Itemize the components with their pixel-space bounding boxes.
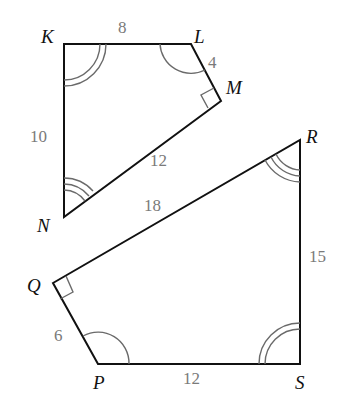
side-label-rs: 15 (309, 247, 326, 266)
side-label-sp: 12 (183, 369, 200, 388)
angle-mark-s (259, 323, 300, 364)
vertex-label-r: R (305, 126, 318, 147)
klmn-outline (64, 44, 221, 217)
side-label-nk: 10 (30, 127, 47, 146)
quadrilateral-pqrs: P Q R S 6 18 15 12 (27, 126, 326, 393)
vertex-label-l: L (193, 26, 205, 47)
vertex-label-q: Q (27, 275, 41, 296)
vertex-label-p: P (92, 372, 105, 393)
side-label-qr: 18 (144, 196, 161, 215)
vertex-label-k: K (40, 26, 55, 47)
geometry-diagram: K L M N 8 4 12 10 P Q R (0, 0, 346, 407)
side-label-lm: 4 (208, 53, 217, 72)
vertex-label-m: M (225, 77, 243, 98)
angle-mark-m (201, 88, 214, 108)
quadrilateral-klmn: K L M N 8 4 12 10 (30, 18, 243, 236)
side-label-kl: 8 (118, 18, 127, 37)
angle-mark-q (60, 276, 73, 299)
side-label-pq: 6 (54, 326, 63, 345)
pqrs-outline (53, 140, 300, 364)
side-label-mn: 12 (150, 151, 167, 170)
vertex-label-s: S (295, 372, 305, 393)
vertex-label-n: N (36, 215, 51, 236)
angle-mark-k (64, 44, 106, 86)
diagram-svg: K L M N 8 4 12 10 P Q R (0, 0, 346, 407)
